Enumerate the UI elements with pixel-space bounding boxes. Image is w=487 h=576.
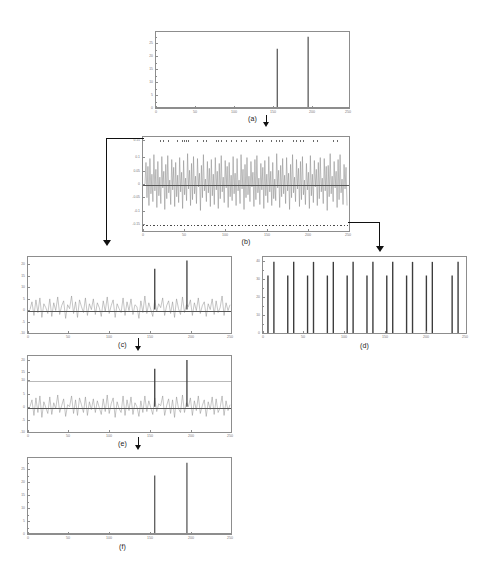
xtick-label: 250	[345, 110, 351, 114]
xtick-label: 150	[147, 335, 153, 339]
panel-a-yticklabels: 0 5 10 15 20 25	[144, 31, 153, 109]
xtick-label: 100	[106, 536, 112, 540]
panel-d-stems	[263, 257, 466, 333]
panel-a-plot-area	[155, 31, 350, 109]
xtick-label: 250	[227, 536, 233, 540]
xtick-label: 100	[222, 233, 228, 237]
ytick-label: 5	[23, 297, 25, 301]
ytick-label: 0	[151, 106, 153, 110]
panel-a: 0 50 100 150 200 250 0 5 10 15 20 25 (a)	[155, 31, 350, 109]
ytick-label: 15	[149, 67, 153, 71]
xtick-label: 0	[262, 335, 264, 339]
panel-d-plot-area	[262, 256, 467, 334]
arrow-b-to-d	[348, 222, 382, 256]
ytick-label: 20	[256, 295, 260, 299]
xtick-label: 50	[66, 434, 70, 438]
panel-a-stems	[156, 32, 349, 108]
ytick-label: 5	[23, 519, 25, 523]
panel-f-baseline	[28, 533, 231, 534]
panel-f-plot-area	[27, 457, 232, 535]
panel-b-dotted-reference	[143, 225, 349, 226]
panel-c-baseline	[28, 311, 231, 312]
xtick-label: 250	[227, 434, 233, 438]
panel-d: 0 50 100 150 200 250 0 10 20 30 40 (d)	[262, 256, 467, 334]
panel-e-baseline	[28, 408, 231, 409]
panel-c-yticklabels: -10 -5 0 5 10 15 20	[14, 256, 25, 334]
ytick-label: 25	[21, 467, 25, 471]
arrow-b-to-c	[104, 138, 144, 250]
ytick-label: -10	[20, 430, 25, 434]
panel-b-baseline	[143, 185, 349, 186]
xtick-label: 200	[188, 335, 194, 339]
xtick-label: 200	[305, 233, 311, 237]
xtick-label: 50	[193, 110, 197, 114]
panel-b-caption: (b)	[142, 238, 350, 245]
xtick-label: 100	[341, 335, 347, 339]
panel-c-waveform	[28, 257, 231, 333]
ytick-label: 10	[21, 378, 25, 382]
panel-d-yticklabels: 0 10 20 30 40	[251, 256, 260, 334]
xtick-label: 150	[147, 434, 153, 438]
xtick-label: 50	[66, 536, 70, 540]
panel-d-xticklabels: 0 50 100 150 200 250	[262, 335, 467, 341]
ytick-label: 0	[23, 308, 25, 312]
ytick-label: 0	[23, 532, 25, 536]
xtick-label: 0	[27, 536, 29, 540]
xtick-label: 150	[264, 233, 270, 237]
xtick-label: 200	[188, 536, 194, 540]
xtick-label: 0	[155, 110, 157, 114]
panel-b: 0 50 100 150 200 250 -0.15 -0.1 -0.05 0 …	[142, 136, 350, 232]
ytick-label: 20	[21, 262, 25, 266]
ytick-label: 25	[149, 41, 153, 45]
ytick-label: 10	[256, 313, 260, 317]
xtick-label: 100	[231, 110, 237, 114]
arrow-c-to-e	[134, 338, 142, 352]
ytick-label: 15	[21, 493, 25, 497]
ytick-label: 0	[258, 331, 260, 335]
xtick-label: 0	[27, 434, 29, 438]
panel-f-xticklabels: 0 50 100 150 200 250	[27, 536, 232, 542]
xtick-label: 100	[106, 335, 112, 339]
panel-f-yticklabels: 0 5 10 15 20 25	[16, 457, 25, 535]
ytick-label: -10	[20, 331, 25, 335]
panel-e-plot-area	[27, 355, 232, 433]
ytick-label: 20	[149, 54, 153, 58]
panel-b-plot-area	[142, 136, 350, 232]
panel-e: 0 50 100 150 200 250 -10 -5 0 5 10 15 20…	[27, 355, 232, 433]
xtick-label: 0	[27, 335, 29, 339]
ytick-label: 5	[23, 392, 25, 396]
arrow-e-to-f	[134, 437, 142, 451]
panel-e-waveform	[28, 356, 231, 432]
panel-b-waveform	[143, 137, 349, 231]
ytick-label: -5	[22, 418, 25, 422]
xtick-label: 200	[423, 335, 429, 339]
arrow-a-to-b	[262, 115, 270, 128]
ytick-label: 5	[151, 93, 153, 97]
xtick-label: 150	[270, 110, 276, 114]
ytick-label: 20	[21, 480, 25, 484]
ytick-label: 10	[149, 80, 153, 84]
panel-c-plot-area	[27, 256, 232, 334]
ytick-label: 40	[256, 259, 260, 263]
xtick-label: 200	[309, 110, 315, 114]
xtick-label: 200	[188, 434, 194, 438]
panel-c: 0 50 100 150 200 250 -10 -5 0 5 10 15 20…	[27, 256, 232, 334]
xtick-label: 50	[301, 335, 305, 339]
panel-f: 0 50 100 150 200 250 0 5 10 15 20 25 (f)	[27, 457, 232, 535]
panel-f-stems	[28, 458, 231, 534]
ytick-label: 10	[21, 285, 25, 289]
xtick-label: 100	[106, 434, 112, 438]
ytick-label: -5	[22, 320, 25, 324]
xtick-label: 150	[382, 335, 388, 339]
xtick-label: 250	[227, 335, 233, 339]
figure-canvas: 0 50 100 150 200 250 0 5 10 15 20 25 (a)	[0, 0, 487, 576]
panel-e-caption: (e)	[13, 440, 232, 447]
panel-d-caption: (d)	[262, 342, 467, 349]
xtick-label: 50	[182, 233, 186, 237]
xtick-label: 250	[462, 335, 468, 339]
panel-a-caption: (a)	[155, 115, 350, 122]
ytick-label: 10	[21, 506, 25, 510]
panel-a-baseline	[156, 107, 349, 108]
ytick-label: 0	[23, 405, 25, 409]
ytick-label: 15	[21, 370, 25, 374]
